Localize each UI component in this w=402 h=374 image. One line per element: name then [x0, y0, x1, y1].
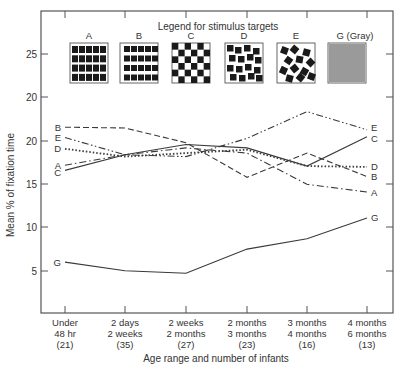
x-tick-label: (35) — [117, 339, 134, 350]
x-tick-label: Under — [52, 317, 78, 328]
y-tick-label: 10 — [26, 222, 38, 233]
x-tick-label: 4 months — [347, 317, 386, 328]
x-axis-label: Age range and number of infants — [143, 353, 289, 364]
series-label-left: D — [54, 143, 61, 154]
svg-text:D: D — [241, 30, 248, 41]
x-tick-label: 2 weeks — [169, 317, 204, 328]
x-tick-label: 4 months — [287, 328, 326, 339]
series-line-g — [65, 218, 367, 273]
legend-swatch-e: E — [277, 30, 316, 83]
series-label-right: B — [371, 171, 377, 182]
x-tick-label: 6 months — [347, 328, 386, 339]
series-line-c — [65, 137, 367, 171]
legend-swatch-b: B — [120, 30, 158, 83]
legend-swatch-g: G (Gray) — [328, 30, 373, 83]
legend-swatch-c: C — [172, 30, 210, 83]
legend-title: Legend for stimulus targets — [158, 21, 279, 32]
series-label-right: G — [371, 212, 378, 223]
x-tick-label: (27) — [178, 339, 195, 350]
y-tick-label: 20 — [26, 136, 38, 147]
x-tick-label: (21) — [57, 339, 74, 350]
series-label-left: G — [54, 257, 61, 268]
y-tick-label: 15 — [26, 179, 38, 190]
y-axis-label: Mean % of fixation time — [5, 133, 16, 237]
svg-text:G (Gray): G (Gray) — [337, 30, 374, 41]
svg-text:B: B — [136, 30, 142, 41]
y-tick-label: 20 — [26, 92, 38, 103]
x-tick-label: 3 months — [287, 317, 326, 328]
legend-swatch-d: D — [225, 30, 263, 83]
svg-text:A: A — [86, 30, 93, 41]
x-tick-label: 48 hr — [54, 328, 76, 339]
svg-text:E: E — [293, 30, 299, 41]
legend-swatch-a: A — [70, 30, 108, 83]
x-tick-label: 3 months — [227, 328, 266, 339]
y-tick-label: 25 — [26, 49, 38, 60]
series-label-right: D — [371, 161, 378, 172]
x-tick-label: 2 months — [227, 317, 266, 328]
series-label-right: C — [371, 133, 378, 144]
data-series: AABBCCDDEEGG — [54, 112, 379, 274]
series-label-left: E — [55, 132, 61, 143]
series-label-left: C — [54, 167, 61, 178]
chart-figure: 25202015105 Under48 hr(21)2 days2 weeks(… — [0, 0, 402, 374]
x-tick-label: (16) — [299, 339, 316, 350]
series-label-right: E — [371, 122, 377, 133]
legend: Legend for stimulus targets ABCDEG (Gray… — [70, 21, 373, 83]
y-tick-label: 5 — [31, 266, 37, 277]
x-tick-label: (23) — [239, 339, 256, 350]
x-tick-label: 2 months — [166, 328, 205, 339]
x-tick-label: 2 weeks — [108, 328, 143, 339]
series-label-left: B — [55, 122, 61, 133]
x-tick-label: (13) — [359, 339, 376, 350]
svg-text:C: C — [188, 30, 195, 41]
series-label-right: A — [371, 187, 378, 198]
x-tick-label: 2 days — [111, 317, 139, 328]
series-line-e — [65, 112, 367, 157]
